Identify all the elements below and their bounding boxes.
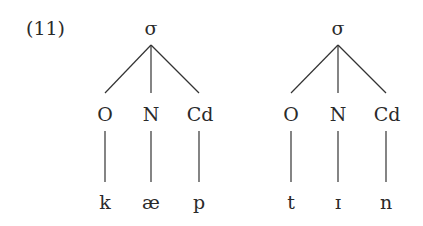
coda-node: Cd	[374, 105, 401, 124]
segment: æ	[142, 193, 160, 212]
syllable-structure-diagram: (11) σ O N Cd k æ p σ O N Cd t ɪ n	[0, 0, 423, 226]
segment: p	[193, 193, 205, 212]
segment: ɪ	[335, 193, 341, 212]
nucleus-node: N	[143, 105, 160, 124]
nucleus-node: N	[330, 105, 347, 124]
syllable-node: σ	[332, 19, 345, 38]
onset-node: O	[97, 105, 113, 124]
onset-node: O	[283, 105, 299, 124]
branch-line	[105, 45, 151, 93]
segment: k	[99, 193, 111, 212]
segment: n	[380, 193, 392, 212]
example-number: (11)	[26, 19, 65, 38]
segment: t	[287, 193, 295, 212]
coda-node: Cd	[187, 105, 214, 124]
branch-line	[151, 45, 199, 93]
syllable-node: σ	[145, 19, 158, 38]
branch-line	[338, 45, 386, 93]
branch-line	[291, 45, 338, 93]
